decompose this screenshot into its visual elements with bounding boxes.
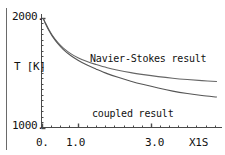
navier-stokes-curve-label: Navier-Stokes result xyxy=(90,53,206,64)
y-axis-tick-label-1000: 1000. xyxy=(12,119,44,132)
chart-figure: 2000. T [K] 1000. 0. 1.0 3.0 X1S Navier-… xyxy=(0,0,225,155)
x-axis-tick-label-1: 1.0 xyxy=(66,136,85,149)
y-axis-tick-label-2000: 2000. xyxy=(12,10,44,23)
y-axis-title: T [K] xyxy=(14,60,46,73)
y-axis-ticks xyxy=(42,19,46,129)
coupled-curve-label: coupled result xyxy=(92,108,174,119)
x-axis-ticks xyxy=(43,124,216,128)
x-axis-tick-label-0: 0. xyxy=(36,136,49,149)
navier-stokes-curve xyxy=(43,19,216,82)
x-axis-title: X1S xyxy=(189,136,208,149)
x-axis-tick-label-3: 3.0 xyxy=(145,136,164,149)
